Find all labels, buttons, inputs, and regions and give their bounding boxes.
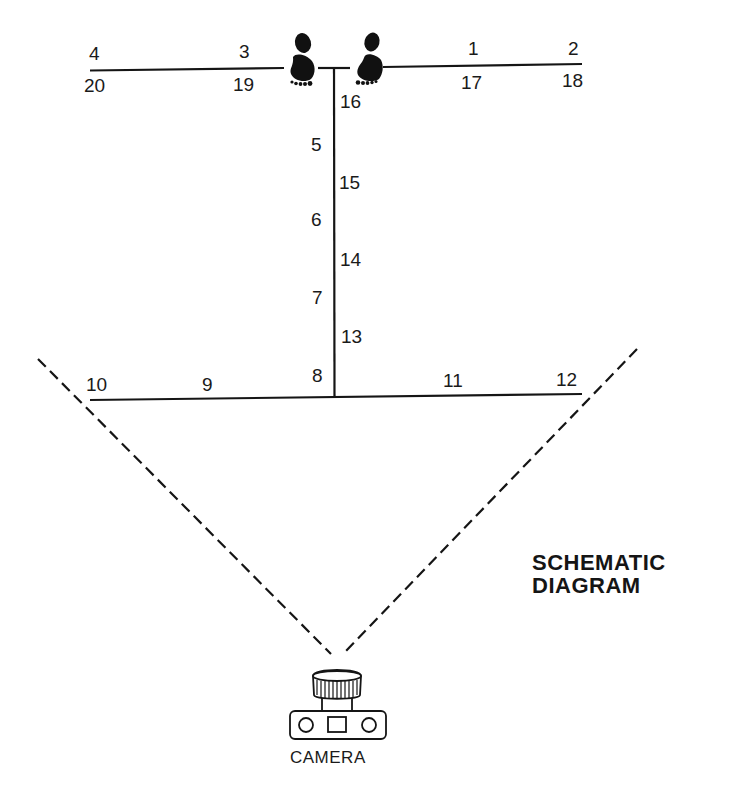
field-of-view-left bbox=[38, 359, 331, 654]
camera-label: CAMERA bbox=[290, 749, 366, 766]
position-label-16: 16 bbox=[340, 92, 361, 111]
position-label-1: 1 bbox=[468, 39, 479, 58]
top-line-left bbox=[90, 68, 284, 71]
position-label-19: 19 bbox=[233, 75, 254, 94]
position-label-14: 14 bbox=[340, 250, 361, 269]
position-label-2: 2 bbox=[568, 39, 579, 58]
bottom-line bbox=[90, 394, 582, 400]
position-label-20: 20 bbox=[84, 76, 105, 95]
position-label-15: 15 bbox=[339, 173, 360, 192]
position-label-10: 10 bbox=[86, 375, 107, 394]
position-label-7: 7 bbox=[312, 288, 323, 307]
schematic-diagram bbox=[0, 0, 755, 799]
position-label-13: 13 bbox=[341, 327, 362, 346]
camera-icon bbox=[290, 670, 386, 739]
position-label-9: 9 bbox=[202, 375, 213, 394]
diagram-title: SCHEMATIC DIAGRAM bbox=[532, 551, 666, 597]
position-label-11: 11 bbox=[443, 371, 463, 390]
position-label-5: 5 bbox=[311, 135, 322, 154]
vertical-line bbox=[334, 68, 335, 397]
title-line-2: DIAGRAM bbox=[532, 574, 666, 597]
position-label-3: 3 bbox=[239, 42, 250, 61]
position-label-6: 6 bbox=[311, 210, 322, 229]
position-label-8: 8 bbox=[312, 366, 323, 385]
position-label-12: 12 bbox=[556, 370, 577, 389]
position-label-4: 4 bbox=[89, 44, 100, 63]
position-label-18: 18 bbox=[562, 71, 583, 90]
footprint-icon bbox=[356, 31, 383, 85]
footprint-icon bbox=[290, 31, 314, 86]
top-line-right bbox=[383, 64, 582, 67]
position-label-17: 17 bbox=[461, 73, 482, 92]
title-line-1: SCHEMATIC bbox=[532, 551, 666, 574]
